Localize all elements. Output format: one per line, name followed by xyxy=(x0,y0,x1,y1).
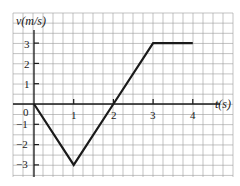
y-tick-label-neg1: −1 xyxy=(16,118,28,130)
y-tick-label-2: 2 xyxy=(24,58,30,70)
x-tick-label-4: 4 xyxy=(190,109,196,121)
x-tick-label-3: 3 xyxy=(150,109,156,121)
x-tick-label-1: 1 xyxy=(71,109,77,121)
y-tick-label-1: 1 xyxy=(24,78,30,90)
origin-label: 0 xyxy=(23,106,29,118)
y-tick-label-3: 3 xyxy=(24,38,30,50)
x-tick-label-2: 2 xyxy=(111,109,117,121)
y-axis-title: v(m/s) xyxy=(16,14,46,28)
x-axis-title: t(s) xyxy=(215,97,231,111)
y-tick-label-neg2: −2 xyxy=(16,138,28,150)
y-tick-label-neg3: −3 xyxy=(16,158,28,170)
velocity-time-chart: v(m/s) t(s) 0 3 2 1 −1 −2 −3 1 2 3 4 xyxy=(0,0,240,186)
grid xyxy=(13,13,233,177)
